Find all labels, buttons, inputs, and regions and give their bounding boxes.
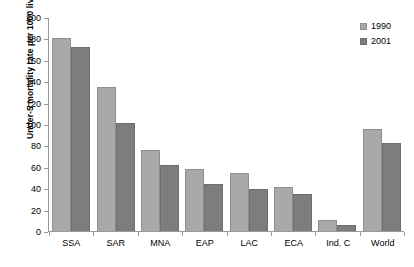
- x-tick-mark: [271, 232, 272, 236]
- x-tick-label: LAC: [227, 238, 272, 248]
- bar-group: [271, 18, 315, 231]
- x-tick-mark: [182, 232, 183, 236]
- bar-ssa-2001: [71, 47, 90, 231]
- bar-group: [227, 18, 271, 231]
- x-tick-label: World: [361, 238, 406, 248]
- bar-group: [182, 18, 226, 231]
- legend-label-1990: 1990: [371, 21, 391, 31]
- y-tick-mark: [44, 125, 48, 126]
- x-tick-label: MNA: [138, 238, 183, 248]
- bar-eca-2001: [293, 194, 312, 231]
- bar-world-2001: [382, 143, 401, 231]
- y-tick-mark: [44, 168, 48, 169]
- y-tick-label: 100: [26, 120, 41, 130]
- chart-legend: 1990 2001: [360, 21, 391, 46]
- bar-lac-1990: [230, 173, 249, 231]
- bar-sar-1990: [97, 87, 116, 231]
- y-tick-label: 160: [26, 56, 41, 66]
- bar-mna-1990: [141, 150, 160, 231]
- bar-lac-2001: [249, 189, 268, 231]
- y-tick-mark: [44, 104, 48, 105]
- legend-swatch-2001-icon: [360, 38, 367, 45]
- legend-swatch-1990-icon: [360, 23, 367, 30]
- x-tick-mark: [227, 232, 228, 236]
- bar-mna-2001: [160, 165, 179, 231]
- bar-group: [49, 18, 93, 231]
- bar-chart: Under-5 mortality rate per 1000 live bir…: [0, 0, 414, 267]
- bar-eap-1990: [185, 169, 204, 231]
- bar-group: [93, 18, 137, 231]
- y-tick-mark: [44, 39, 48, 40]
- x-tick-mark: [93, 232, 94, 236]
- bar-sar-2001: [116, 123, 135, 231]
- y-tick-label: 0: [36, 227, 41, 237]
- y-tick-mark: [44, 146, 48, 147]
- legend-item-1990: 1990: [360, 21, 391, 31]
- x-axis-labels: SSASARMNAEAPLACECAInd. CWorld: [49, 238, 405, 248]
- x-tick-label: SSA: [49, 238, 94, 248]
- y-tick-label: 120: [26, 99, 41, 109]
- y-tick-mark: [44, 232, 48, 233]
- y-tick-mark: [44, 189, 48, 190]
- x-tick-mark: [360, 232, 361, 236]
- bar-group: [138, 18, 182, 231]
- y-tick-mark: [44, 61, 48, 62]
- bar-ind-c-2001: [337, 225, 356, 231]
- legend-item-2001: 2001: [360, 36, 391, 46]
- bar-groups: [49, 18, 404, 231]
- x-tick-label: Ind. C: [316, 238, 361, 248]
- y-tick-label: 80: [31, 141, 41, 151]
- plot-area: 020406080100120140160180200: [48, 18, 404, 232]
- x-tick-mark: [404, 232, 405, 236]
- y-tick-label: 180: [26, 34, 41, 44]
- bar-group: [360, 18, 404, 231]
- bar-eca-1990: [274, 187, 293, 231]
- x-tick-mark: [49, 232, 50, 236]
- y-tick-mark: [44, 211, 48, 212]
- bar-ssa-1990: [52, 38, 71, 231]
- x-tick-label: EAP: [183, 238, 228, 248]
- y-tick-label: 40: [31, 184, 41, 194]
- y-tick-mark: [44, 18, 48, 19]
- bar-eap-2001: [204, 184, 223, 231]
- y-tick-label: 200: [26, 13, 41, 23]
- x-tick-label: ECA: [272, 238, 317, 248]
- x-tick-label: SAR: [94, 238, 139, 248]
- x-tick-mark: [138, 232, 139, 236]
- bar-group: [315, 18, 359, 231]
- y-tick-label: 20: [31, 206, 41, 216]
- bar-world-1990: [363, 129, 382, 231]
- y-tick-label: 60: [31, 163, 41, 173]
- bar-ind-c-1990: [318, 220, 337, 231]
- legend-label-2001: 2001: [371, 36, 391, 46]
- y-tick-label: 140: [26, 77, 41, 87]
- x-tick-mark: [315, 232, 316, 236]
- y-tick-mark: [44, 82, 48, 83]
